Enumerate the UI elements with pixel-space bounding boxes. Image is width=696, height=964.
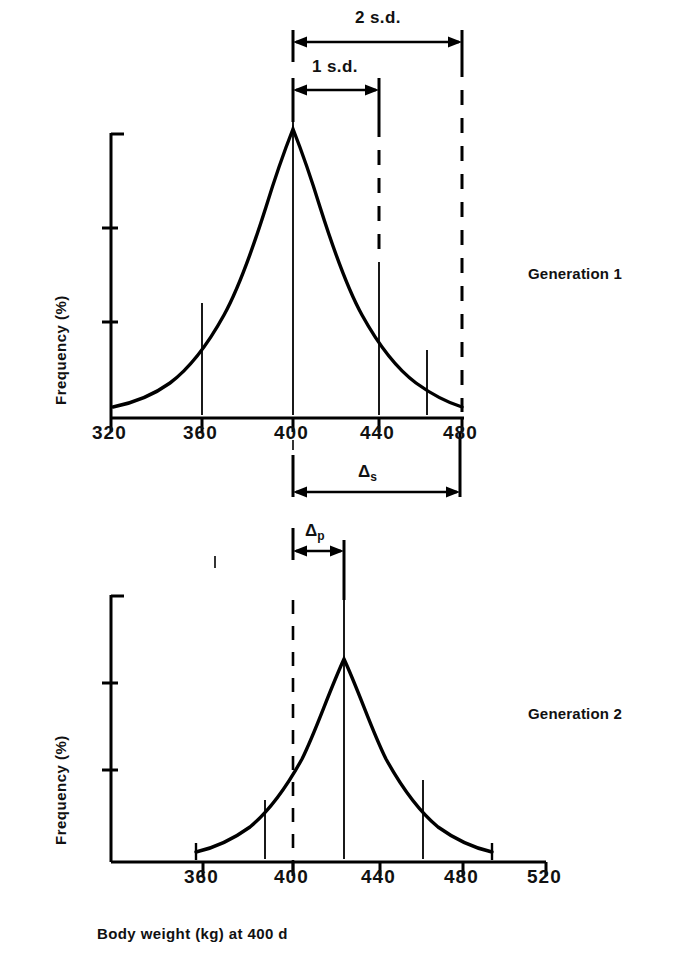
generation2-vertical-lines bbox=[265, 659, 423, 859]
generation1-label: Generation 1 bbox=[528, 265, 622, 282]
gen1-xtick-440: 440 bbox=[360, 422, 395, 444]
generation1-curve bbox=[113, 129, 462, 407]
two-sd-label: 2 s.d. bbox=[355, 8, 401, 28]
delta-s-label: Δs bbox=[358, 462, 377, 484]
gen2-y-axis-label: Frequency (%) bbox=[52, 735, 69, 845]
gen1-y-axis-label: Frequency (%) bbox=[52, 295, 69, 405]
generation1-axes bbox=[102, 133, 464, 432]
figure-caption: Body weight (kg) at 400 d bbox=[97, 925, 288, 942]
gen1-xtick-320: 320 bbox=[92, 422, 127, 444]
delta-s-symbol: Δ bbox=[358, 462, 370, 481]
gen2-xtick-520: 520 bbox=[527, 866, 562, 888]
generation2-axes bbox=[102, 595, 546, 876]
generation2-label: Generation 2 bbox=[528, 705, 622, 722]
one-sd-measure bbox=[293, 78, 379, 122]
gen2-xtick-480: 480 bbox=[444, 866, 479, 888]
delta-s-subscript: s bbox=[370, 470, 377, 484]
gen2-xtick-400: 400 bbox=[274, 866, 309, 888]
one-sd-label: 1 s.d. bbox=[312, 57, 358, 77]
delta-p-subscript: p bbox=[317, 529, 324, 543]
gen2-xtick-360: 360 bbox=[184, 866, 219, 888]
delta-p-symbol: Δ bbox=[305, 521, 317, 540]
gen1-xtick-480: 480 bbox=[443, 422, 478, 444]
gen1-xtick-400: 400 bbox=[274, 422, 309, 444]
delta-p-label: Δp bbox=[305, 521, 325, 543]
gen2-xtick-440: 440 bbox=[361, 866, 396, 888]
generation1-vertical-lines bbox=[202, 129, 427, 415]
gen1-xtick-360: 360 bbox=[183, 422, 218, 444]
selection-response-figure bbox=[0, 0, 696, 964]
